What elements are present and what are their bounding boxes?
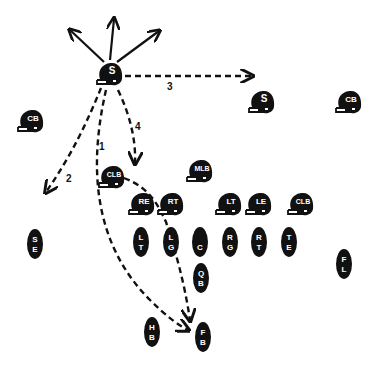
offense-lt-off: LT	[133, 227, 149, 257]
defender-s-blitz: S	[97, 63, 122, 85]
defender-label: CB	[345, 95, 357, 104]
offense-label-bottom: B	[149, 333, 155, 342]
rush-arrow-center	[110, 19, 114, 60]
defender-cb-right: CB	[336, 91, 361, 113]
player-oval-icon	[336, 249, 352, 279]
offense-label-bottom: T	[257, 243, 262, 252]
defender-rt: RT	[158, 193, 183, 215]
defender-le: LE	[246, 193, 271, 215]
defender-label: S	[261, 93, 268, 104]
offense-label-bottom: B	[200, 338, 206, 347]
rush-arrow-left	[70, 30, 104, 62]
offense-fb: FB	[195, 322, 211, 352]
offense-label-top: H	[149, 323, 155, 332]
route-2-path	[46, 88, 101, 192]
offense-hb: HB	[144, 317, 160, 347]
player-oval-icon	[222, 227, 238, 257]
offense-qb: QB	[193, 263, 209, 293]
player-oval-icon	[192, 227, 208, 257]
offense-label-bottom: E	[32, 245, 38, 254]
offense-rg: RG	[222, 227, 238, 257]
defender-label: LE	[256, 197, 267, 206]
offense-lg: LG	[163, 227, 179, 257]
route-1-label: 1	[99, 141, 105, 152]
offense-players: SELTLGCRGRTTEQBFLHBFB	[27, 227, 352, 352]
defender-s-right: S	[249, 91, 274, 113]
offense-fl: FL	[336, 249, 352, 279]
offense-label-top: L	[139, 233, 144, 242]
defense-players: SSCBCBMLBCLBRERTLTLECLB	[18, 63, 361, 215]
player-oval-icon	[193, 263, 209, 293]
offense-label-top: T	[287, 233, 292, 242]
defender-label: S	[109, 65, 116, 76]
route-2-label: 2	[66, 173, 72, 184]
rush-arrows	[70, 19, 159, 62]
offense-label-bottom: G	[227, 243, 233, 252]
defender-re: RE	[129, 193, 154, 215]
defender-clb-right: CLB	[288, 193, 313, 215]
player-oval-icon	[27, 229, 43, 259]
defender-label: RE	[138, 197, 150, 206]
defender-label: CLB	[107, 171, 121, 178]
offense-label-bottom: B	[198, 279, 204, 288]
offense-label-top: Q	[198, 269, 204, 278]
defender-label: MLB	[194, 165, 209, 172]
offense-label-bottom: C	[197, 243, 203, 252]
offense-label-top: F	[342, 255, 347, 264]
offense-c: C	[192, 227, 208, 257]
offense-label-bottom: L	[342, 265, 347, 274]
player-oval-icon	[195, 322, 211, 352]
defender-label: CB	[27, 114, 39, 123]
defender-clb-left: CLB	[99, 166, 124, 188]
offense-label-top: L	[169, 233, 174, 242]
defender-lt: LT	[216, 193, 241, 215]
rush-arrow-right	[117, 31, 159, 62]
player-oval-icon	[133, 227, 149, 257]
offense-label-top: R	[256, 233, 262, 242]
player-oval-icon	[163, 227, 179, 257]
offense-te: TE	[281, 227, 297, 257]
route-4-path	[118, 90, 135, 163]
offense-label-bottom: G	[168, 243, 174, 252]
offense-rt-off: RT	[251, 227, 267, 257]
defender-label: CLB	[296, 198, 310, 205]
defender-label: RT	[168, 197, 179, 206]
player-oval-icon	[144, 317, 160, 347]
offense-label-top: F	[201, 328, 206, 337]
offense-se: SE	[27, 229, 43, 259]
route-3-label: 3	[167, 81, 173, 92]
defender-label: LT	[226, 197, 235, 206]
offense-label-top: S	[32, 235, 38, 244]
offense-label-bottom: E	[286, 243, 292, 252]
route-4-label: 4	[135, 121, 141, 132]
defender-mlb: MLB	[187, 160, 212, 182]
offense-label-bottom: T	[139, 243, 144, 252]
player-oval-icon	[251, 227, 267, 257]
offense-label-top: R	[227, 233, 233, 242]
defender-cb-left: CB	[18, 110, 43, 132]
play-diagram: 1234 SSCBCBMLBCLBRERTLTLECLB SELTLGCRGRT…	[0, 0, 382, 371]
player-oval-icon	[281, 227, 297, 257]
